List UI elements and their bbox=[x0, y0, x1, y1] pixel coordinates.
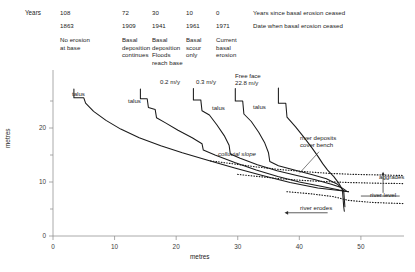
rate-label-1961: 0.3 m/y bbox=[196, 78, 216, 85]
annotation-colluvial-slope: colluvial slope bbox=[218, 150, 256, 157]
y-axis-title: metres bbox=[4, 128, 11, 148]
annotation-talus-1: talus bbox=[72, 90, 85, 97]
annotation-aggrades: aggrades bbox=[379, 173, 404, 180]
x-tick-label: 50 bbox=[357, 243, 365, 250]
annotation-river-erodes: river erodes bbox=[300, 204, 332, 211]
x-tick-label: 10 bbox=[111, 243, 119, 250]
y-tick-label: 10 bbox=[39, 178, 47, 185]
x-tick-label: 30 bbox=[234, 243, 242, 250]
x-tick-label: 0 bbox=[51, 243, 55, 250]
slope-profile-line bbox=[278, 88, 344, 211]
chart-canvas: 0102001020304050 bbox=[0, 0, 415, 272]
x-axis-title: metres bbox=[190, 253, 210, 260]
figure-slope-evolution: Years 108 72 30 10 0 1863 1909 1941 1961… bbox=[0, 0, 415, 272]
rate-label-1941: 0.2 m/y bbox=[160, 78, 180, 85]
x-tick-label: 20 bbox=[173, 243, 181, 250]
annotation-river-deposits: river deposits cover bench bbox=[300, 134, 336, 149]
annotation-talus-4: talus bbox=[253, 103, 266, 110]
rate-label-1971: Free face 22.8 m/y bbox=[235, 72, 261, 87]
leader-line-river-deposits bbox=[299, 152, 319, 174]
annotation-talus-2: talus bbox=[128, 97, 141, 104]
y-tick-label: 20 bbox=[39, 124, 47, 131]
river-erodes-arrow-head bbox=[285, 211, 289, 215]
annotation-talus-3: talus bbox=[212, 104, 225, 111]
annotation-river-level: river level bbox=[370, 191, 396, 198]
y-tick-label: 0 bbox=[42, 232, 46, 239]
x-tick-label: 40 bbox=[296, 243, 304, 250]
